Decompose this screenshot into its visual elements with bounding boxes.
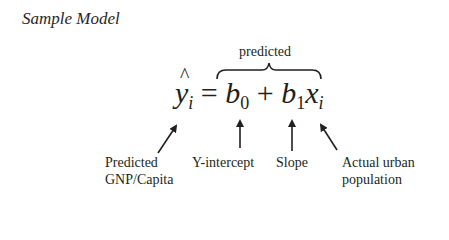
label-line: Actual urban	[342, 154, 415, 171]
label-actual-urban-population: Actual urban population	[342, 154, 415, 188]
arrow-up-left-icon	[321, 125, 337, 150]
label-line: Predicted	[105, 154, 173, 171]
curly-brace	[217, 63, 321, 79]
arrow-up-right-icon	[158, 126, 176, 153]
label-slope: Slope	[276, 154, 308, 171]
label-line: Y-intercept	[192, 154, 254, 171]
label-predicted-gnp: Predicted GNP/Capita	[105, 154, 173, 188]
label-line: Slope	[276, 154, 308, 171]
label-line: GNP/Capita	[105, 171, 173, 188]
label-line: population	[342, 171, 415, 188]
label-y-intercept: Y-intercept	[192, 154, 254, 171]
